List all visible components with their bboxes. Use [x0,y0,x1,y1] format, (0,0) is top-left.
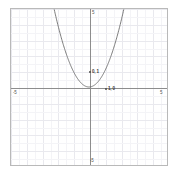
origin-annotation-label: 1, 0 [108,87,115,92]
y-axis-min-label: -5 [90,159,94,164]
parabola-curve [11,9,167,165]
y-axis-max-label: 5 [92,11,94,16]
x-axis-max-label: 5 [160,91,162,96]
x-axis-min-label: -5 [13,91,17,96]
vertex-annotation-label: 0, 1 [92,70,99,75]
vertex-point-marker [89,71,91,73]
origin-point-marker [105,88,107,90]
plot-area: -5 5 5 -5 0, 1 1, 0 [10,8,168,166]
graph-container: -5 5 5 -5 0, 1 1, 0 [0,0,177,174]
